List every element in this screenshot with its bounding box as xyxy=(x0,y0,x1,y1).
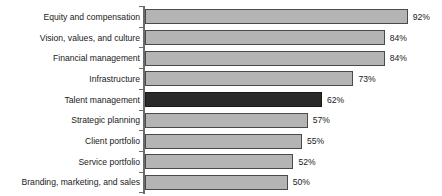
axis-tick xyxy=(139,47,143,48)
value-label: 55% xyxy=(307,136,324,146)
category-label: Client portfolio xyxy=(0,136,140,146)
value-label: 62% xyxy=(327,95,344,105)
bar xyxy=(145,175,288,190)
axis-tick xyxy=(139,151,143,152)
bar xyxy=(145,71,353,86)
bar xyxy=(145,9,408,24)
value-label: 92% xyxy=(413,12,430,22)
axis-tick xyxy=(139,172,143,173)
bar xyxy=(145,154,293,169)
category-label: Service portfolio xyxy=(0,157,140,167)
bar xyxy=(145,134,302,149)
bar xyxy=(145,51,385,66)
value-label: 57% xyxy=(313,115,330,125)
axis-tick xyxy=(139,27,143,28)
value-label: 50% xyxy=(293,177,310,187)
bar xyxy=(145,113,308,128)
category-label: Strategic planning xyxy=(0,115,140,125)
category-label: Vision, values, and culture xyxy=(0,33,140,43)
category-label: Equity and compensation xyxy=(0,12,140,22)
bar-highlighted xyxy=(145,92,322,107)
axis-tick xyxy=(139,192,143,193)
category-label: Branding, marketing, and sales xyxy=(0,177,140,187)
axis-tick xyxy=(139,110,143,111)
axis-tick xyxy=(139,89,143,90)
category-label: Infrastructure xyxy=(0,74,140,84)
axis-tick xyxy=(139,130,143,131)
value-label: 52% xyxy=(298,157,315,167)
horizontal-bar-chart: Equity and compensation92%Vision, values… xyxy=(0,0,442,196)
value-label: 84% xyxy=(390,33,407,43)
axis-tick xyxy=(139,68,143,69)
axis-tick xyxy=(139,6,143,7)
value-label: 84% xyxy=(390,53,407,63)
category-label: Talent management xyxy=(0,95,140,105)
category-label: Financial management xyxy=(0,53,140,63)
value-label: 73% xyxy=(358,74,375,84)
bar xyxy=(145,30,385,45)
